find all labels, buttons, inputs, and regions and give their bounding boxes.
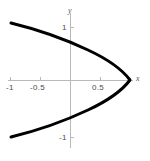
plot-canvas <box>0 0 150 161</box>
y-axis-name-label: y <box>68 6 72 15</box>
x-axis-name-label: x <box>136 74 140 83</box>
x-axis-tick-label-neg-half: -0.5 <box>30 83 45 92</box>
x-axis-tick-label-neg-one: -1 <box>6 83 14 92</box>
x-axis-tick-label-pos-half: 0.5 <box>92 83 104 92</box>
y-axis-tick-label-neg-one: -1 <box>59 133 67 142</box>
parabola-plot-figure: -1 -0.5 0.5 1 -1 x y <box>0 0 150 161</box>
y-axis-tick-label-pos-one: 1 <box>62 23 67 32</box>
